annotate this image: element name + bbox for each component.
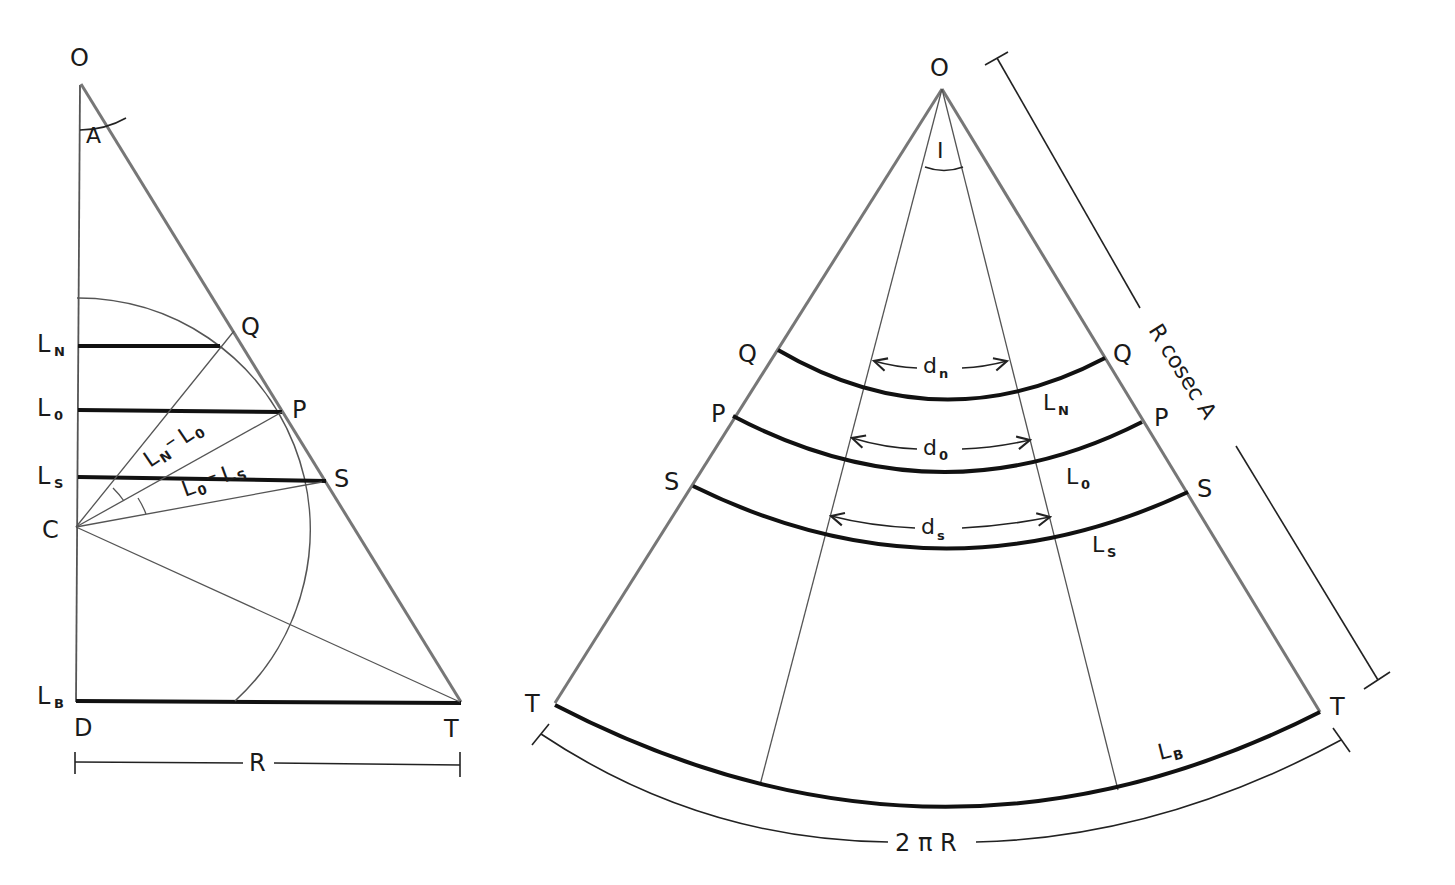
label-q-right-right: Q xyxy=(1113,340,1132,368)
radius-ct-line xyxy=(76,527,460,702)
conic-projection-diagram: O A Q P S C D T R L N L 0 L S L B L N – … xyxy=(0,0,1455,885)
label-c: C xyxy=(42,516,59,544)
dim-slant-line-bottom xyxy=(1236,446,1378,680)
label-s-left: S xyxy=(334,465,349,493)
label-s-right-left: S xyxy=(664,468,679,496)
label-d: D xyxy=(74,714,92,742)
globe-arc xyxy=(77,298,310,701)
latitude-label-ln: L N xyxy=(37,330,65,359)
svg-text:n: n xyxy=(939,366,948,381)
axis-line-od xyxy=(76,85,80,702)
svg-text:B: B xyxy=(54,696,64,711)
base-line-lb xyxy=(76,701,461,703)
latitude-label-lb: L B xyxy=(37,682,64,711)
cone-edge-left xyxy=(555,89,942,703)
distance-d0-arrow-right xyxy=(962,440,1030,449)
label-2-pi-r: 2 π R xyxy=(895,829,957,857)
dim-r-line-right xyxy=(274,763,460,765)
angle-label-l0-minus-ls: L 0 – L S xyxy=(177,452,249,503)
svg-text:d: d xyxy=(923,435,937,460)
dim-arc-line-left xyxy=(541,734,888,842)
label-q-right-left: Q xyxy=(738,340,757,368)
distance-ds-arrow-right xyxy=(962,517,1050,528)
svg-text:N: N xyxy=(1058,403,1069,418)
cone-slant-line xyxy=(81,84,461,702)
meridian-right xyxy=(942,89,1118,790)
parallel-arc-lb xyxy=(555,705,1320,807)
distance-label-d0: d 0 xyxy=(923,435,948,463)
svg-text:0: 0 xyxy=(1081,477,1090,492)
svg-text:S: S xyxy=(1107,545,1116,560)
radius-cq-line xyxy=(76,331,234,527)
svg-text:d: d xyxy=(921,514,935,539)
label-t-right-right: T xyxy=(1329,693,1345,721)
svg-text:s: s xyxy=(937,528,945,543)
parallel-l0-line xyxy=(78,410,282,412)
distance-ds-arrow-left xyxy=(831,516,915,528)
arc-label-l0: L 0 xyxy=(1066,464,1090,492)
svg-text:0: 0 xyxy=(54,408,63,423)
distance-dn-arrow-right xyxy=(962,361,1007,368)
label-p-left: P xyxy=(292,396,306,424)
distance-dn-arrow-left xyxy=(874,361,917,368)
dim-arc-tick-left xyxy=(532,724,549,745)
arc-label-ls: L S xyxy=(1092,532,1116,560)
dim-r-line-left xyxy=(75,762,243,763)
label-p-right-right: P xyxy=(1154,404,1168,432)
label-angle-a: A xyxy=(86,123,101,148)
svg-text:d: d xyxy=(923,353,937,378)
label-p-right-left: P xyxy=(711,400,725,428)
label-o-right: O xyxy=(930,54,949,82)
svg-text:N: N xyxy=(54,344,65,359)
svg-text:L: L xyxy=(37,682,51,710)
label-s-right-right: S xyxy=(1197,475,1212,503)
label-q-left: Q xyxy=(241,313,260,341)
svg-text:L: L xyxy=(37,394,51,422)
dim-arc-tick-right xyxy=(1333,728,1350,752)
svg-text:S: S xyxy=(54,476,63,491)
svg-text:L: L xyxy=(1043,390,1056,415)
dim-slant-line-top xyxy=(997,58,1140,308)
svg-text:L: L xyxy=(1092,532,1105,557)
latitude-label-l0: L 0 xyxy=(37,394,63,423)
cone-edge-right xyxy=(942,89,1320,712)
label-t-right-left: T xyxy=(524,690,540,718)
distance-label-ds: d s xyxy=(921,514,945,543)
svg-text:L: L xyxy=(37,462,51,490)
svg-text:L: L xyxy=(1155,737,1174,764)
svg-text:B: B xyxy=(1172,746,1185,763)
svg-text:0: 0 xyxy=(939,448,948,463)
label-angle-i: I xyxy=(937,138,944,163)
parallel-arc-l0 xyxy=(733,416,1142,472)
label-o-left: O xyxy=(70,44,89,72)
meridian-left xyxy=(760,89,942,785)
angle-label-ln-minus-l0: L N – L 0 xyxy=(137,412,208,474)
svg-text:L: L xyxy=(1066,464,1079,489)
right-developed-cone xyxy=(532,52,1390,842)
label-t-left: T xyxy=(443,715,459,743)
distance-d0-arrow-left xyxy=(852,438,917,449)
dim-slant-tick-bottom xyxy=(1364,672,1390,689)
angle-arc-lower xyxy=(138,498,146,514)
angle-i-arc xyxy=(925,167,963,171)
angle-arc-upper xyxy=(113,488,124,501)
left-cross-section xyxy=(75,84,461,777)
arc-label-lb: L B xyxy=(1155,735,1185,767)
label-r: R xyxy=(249,749,266,777)
latitude-label-ls: L S xyxy=(37,462,63,491)
arc-label-ln: L N xyxy=(1043,390,1069,418)
distance-label-dn: d n xyxy=(923,353,948,381)
svg-text:L: L xyxy=(37,330,51,358)
